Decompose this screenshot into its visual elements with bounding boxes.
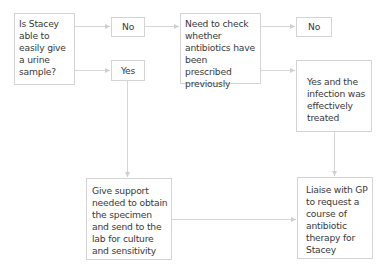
node-liaise-gp: Liaise with GP to request a course of an… (297, 177, 373, 259)
node-no-2: No (296, 17, 332, 37)
node-label: Is Stacey able to easily give a urine sa… (19, 18, 66, 77)
node-label: No (308, 21, 320, 33)
node-label: Yes and the infection was effectively tr… (307, 76, 365, 123)
node-no-1: No (111, 17, 145, 37)
node-question: Is Stacey able to easily give a urine sa… (14, 13, 75, 85)
node-yes-treated: Yes and the infection was effectively tr… (296, 60, 372, 132)
node-label: Liaise with GP to request a course of an… (306, 184, 368, 255)
node-label: Give support needed to obtain the specim… (92, 185, 167, 256)
node-label: Need to check whether antibiotics have b… (185, 18, 255, 89)
node-yes-1: Yes (111, 60, 145, 81)
node-label: No (122, 21, 134, 33)
node-check-antibiotics: Need to check whether antibiotics have b… (180, 13, 261, 84)
node-give-support: Give support needed to obtain the specim… (86, 178, 172, 260)
node-label: Yes (121, 65, 135, 77)
